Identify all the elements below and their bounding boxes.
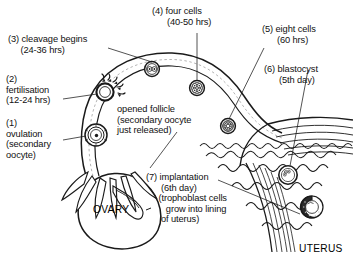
label-uterus: UTERUS — [299, 243, 343, 254]
leader-step1 — [63, 136, 86, 140]
label-opened-follicle-note: opened follicle (secondary oocyte just r… — [117, 104, 191, 136]
leader-follicle-note — [150, 132, 177, 168]
label-step1-ovulation: (1) ovulation (secondary oocyte) — [6, 118, 51, 160]
structure-eight-cell-embryo — [221, 119, 236, 134]
structure-four-cell-embryo — [190, 81, 205, 96]
structure-ovulation-oocyte — [85, 124, 107, 146]
structure-fertilisation-site — [96, 74, 125, 101]
label-step3-cleavage-begins: (3) cleavage begins (24-36 hrs) — [8, 34, 87, 55]
label-step2-fertilisation: (2) fertilisation (12-24 hrs) — [6, 74, 50, 106]
leader-step2 — [63, 94, 97, 99]
structure-implanting-blastocyst — [300, 196, 323, 218]
label-step5-eight-cells: (5) eight cells (60 hrs) — [262, 24, 316, 45]
structure-cleavage-embryo — [145, 62, 160, 77]
label-step7-implantation: (7) implantation (6th day) (trophoblast … — [146, 172, 227, 225]
label-step6-blastocyst: (6) blastocyst (5th day) — [264, 64, 318, 85]
uterus-body — [240, 117, 353, 252]
diagram-canvas: (1) ovulation (secondary oocyte) (2) fer… — [0, 0, 353, 266]
structure-blastocyst — [279, 166, 297, 184]
label-step4-four-cells: (4) four cells (40-50 hrs) — [152, 6, 211, 27]
label-ovary: OVARY — [93, 204, 129, 215]
